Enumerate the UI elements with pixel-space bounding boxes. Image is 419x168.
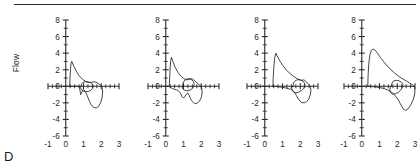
x-tick-label: 0 [262,140,267,148]
y-tick-label: 2 [155,66,160,75]
x-tick-label: -1 [340,140,348,148]
y-tick-label: 8 [351,16,356,25]
subplot-3-plot: -6-4-202468-10123 [221,14,321,148]
y-tick-label: -2 [348,99,356,108]
subplot-3: -6-4-202468-10123 [221,14,321,148]
horizontal-rule-divider [14,4,416,5]
y-tick-label: 8 [55,16,60,25]
x-tick-label: 1 [181,140,186,148]
x-tick-label: 1 [81,140,86,148]
y-tick-label: -4 [52,115,60,124]
panels-row: -6-4-202468-10123 -6-4-202468-10123 -6-4… [0,14,419,148]
x-tick-label: 3 [117,140,122,148]
subplot-4-plot: -6-4-202468-10123 [318,14,418,148]
x-tick-label: -1 [44,140,52,148]
x-tick-label: -1 [243,140,251,148]
y-tick-label: 0 [351,82,356,91]
x-tick-label: 0 [359,140,364,148]
x-tick-label: 0 [63,140,68,148]
flow-volume-loop [273,53,311,103]
y-tick-label: -2 [251,99,259,108]
y-tick-label: -6 [251,132,259,141]
figure-panel-d: Flow -6-4-202468-10123 -6-4-202468-10123… [0,0,419,168]
x-tick-label: 2 [298,140,303,148]
y-tick-label: 2 [55,66,60,75]
y-tick-label: 6 [55,33,60,42]
subplot-2-plot: -6-4-202468-10123 [122,14,222,148]
flow-volume-loop [368,49,415,110]
x-tick-label: -1 [144,140,152,148]
y-tick-label: -4 [251,115,259,124]
x-tick-label: 1 [377,140,382,148]
y-tick-label: -6 [152,132,160,141]
y-tick-label: -6 [348,132,356,141]
y-tick-label: -4 [348,115,356,124]
y-tick-label: 8 [254,16,259,25]
y-tick-label: 0 [254,82,259,91]
x-tick-label: 0 [163,140,168,148]
y-tick-label: -6 [52,132,60,141]
y-tick-label: 4 [254,49,259,58]
y-tick-label: -2 [52,99,60,108]
y-tick-label: 8 [155,16,160,25]
subplot-4: -6-4-202468-10123 [318,14,418,148]
x-tick-label: 2 [199,140,204,148]
subplot-1: -6-4-202468-10123 [22,14,122,148]
y-tick-label: 6 [254,33,259,42]
y-tick-label: -2 [152,99,160,108]
subplot-1-plot: -6-4-202468-10123 [22,14,122,148]
x-tick-label: 2 [395,140,400,148]
y-tick-label: 2 [254,66,259,75]
panel-letter-label: D [4,150,13,163]
y-tick-label: 4 [55,49,60,58]
y-tick-label: 0 [155,82,160,91]
y-tick-label: 4 [155,49,160,58]
y-tick-label: 0 [55,82,60,91]
y-tick-label: 6 [155,33,160,42]
x-tick-label: 2 [99,140,104,148]
y-tick-label: 4 [351,49,356,58]
y-tick-label: 2 [351,66,356,75]
flow-volume-loop [169,57,202,103]
y-tick-label: -4 [152,115,160,124]
subplot-2: -6-4-202468-10123 [122,14,222,148]
x-tick-label: 3 [413,140,418,148]
y-tick-label: 6 [351,33,356,42]
x-tick-label: 1 [280,140,285,148]
